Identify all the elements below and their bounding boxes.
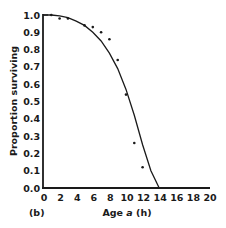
y-tick-label: 0.0: [23, 183, 40, 194]
data-point: [125, 93, 128, 96]
x-axis-label: Age a (h): [102, 207, 151, 218]
data-point: [100, 31, 103, 34]
y-tick-label: 0.5: [23, 96, 40, 107]
data-point: [133, 142, 136, 145]
x-tick-label: 10: [120, 192, 134, 203]
x-tick-label: 14: [154, 192, 168, 203]
x-label-suffix: (h): [133, 207, 152, 218]
x-tick-label: 12: [137, 192, 150, 203]
data-point: [141, 166, 144, 169]
y-axis-label: Proportion surviving: [8, 46, 19, 156]
y-tick-label: 0.9: [23, 27, 40, 38]
x-tick-labels: 02468101214161820: [41, 192, 217, 203]
x-tick-label: 0: [41, 192, 48, 203]
y-tick-label: 1.0: [23, 10, 40, 21]
survival-chart: 0.00.10.20.30.40.50.60.70.80.91.0 024681…: [0, 0, 226, 228]
data-point: [108, 38, 111, 41]
x-tick-label: 18: [187, 192, 201, 203]
y-tick-labels: 0.00.10.20.30.40.50.60.70.80.91.0: [23, 10, 40, 194]
x-tick-label: 16: [170, 192, 184, 203]
x-tick-label: 4: [74, 192, 81, 203]
data-point: [67, 17, 70, 20]
y-tick-label: 0.3: [23, 131, 40, 142]
panel-label: (b): [29, 207, 44, 218]
data-point: [92, 26, 95, 29]
y-tick-label: 0.6: [23, 79, 40, 90]
y-tick-label: 0.7: [23, 61, 40, 72]
y-tick-label: 0.8: [23, 44, 40, 55]
x-tick-label: 8: [107, 192, 114, 203]
x-label-prefix: Age: [102, 207, 126, 218]
x-tick-label: 6: [90, 192, 97, 203]
x-tick-label: 20: [203, 192, 217, 203]
fitted-survival-curve: [43, 15, 159, 188]
data-point: [116, 59, 119, 62]
data-point: [58, 17, 61, 20]
data-point: [50, 14, 53, 17]
data-point: [83, 24, 86, 27]
y-tick-label: 0.2: [23, 148, 40, 159]
y-tick-label: 0.4: [23, 113, 40, 124]
x-tick-label: 2: [57, 192, 64, 203]
y-tick-label: 0.1: [23, 165, 40, 176]
